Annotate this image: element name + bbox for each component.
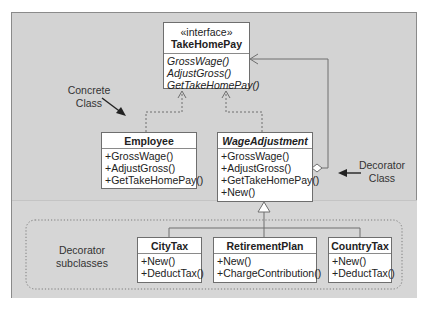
class-countrytax: CountryTax +New() +DeductTax(): [328, 237, 392, 283]
class-name: RetirementPlan: [216, 240, 314, 252]
class-name: CountryTax: [331, 240, 389, 252]
class-employee: Employee +GrossWage() +AdjustGross() +Ge…: [101, 132, 197, 189]
operation: +ChargeContribution(): [217, 267, 313, 279]
operation: +GetTakeHomePay(): [221, 174, 309, 186]
operation: +New(): [221, 186, 309, 198]
generalization-triangle: [258, 202, 270, 212]
operation: +DeductTax(): [141, 267, 198, 279]
class-wageadjustment: WageAdjustment +GrossWage() +AdjustGross…: [217, 132, 313, 202]
aggregation-diamond: [312, 164, 322, 172]
operation: +GrossWage(): [105, 150, 193, 162]
operation: AdjustGross(): [167, 67, 246, 79]
decorator-subclasses-note: Decorator subclasses: [52, 244, 112, 270]
class-name: WageAdjustment: [220, 135, 310, 147]
operation: +New(): [217, 255, 313, 267]
operation: +AdjustGross(): [221, 162, 309, 174]
class-name: CityTax: [140, 240, 199, 252]
class-retirementplan: RetirementPlan +New() +ChargeContributio…: [213, 237, 317, 283]
employee-realization-line: [146, 92, 182, 132]
operation: +GetTakeHomePay(): [105, 174, 193, 186]
class-takehomepay: «interface» TakeHomePay GrossWage() Adju…: [163, 22, 250, 89]
concrete-class-note: Concrete Class: [64, 84, 114, 110]
decorator-class-note: Decorator Class: [357, 159, 407, 185]
operation: +AdjustGross(): [105, 162, 193, 174]
operation: GetTakeHomePay(): [167, 79, 246, 91]
wageadjustment-realization-line: [226, 92, 262, 132]
class-name: Employee: [104, 135, 194, 147]
interface-stereotype: «interface»: [166, 26, 247, 38]
operation: +GrossWage(): [221, 150, 309, 162]
operation: GrossWage(): [167, 55, 246, 67]
class-citytax: CityTax +New() +DeductTax(): [137, 237, 202, 283]
operation: +New(): [332, 255, 388, 267]
operation: +New(): [141, 255, 198, 267]
operation: +DeductTax(): [332, 267, 388, 279]
interface-name: TakeHomePay: [166, 38, 247, 50]
